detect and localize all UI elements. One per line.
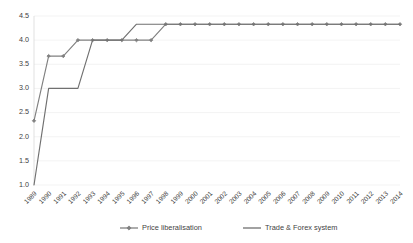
x-axis-tick-label: 1990 [37, 190, 53, 206]
x-axis-tick-label: 1995 [110, 190, 126, 206]
data-point-marker [135, 38, 138, 41]
x-axis-tick-label: 1991 [52, 190, 68, 206]
legend: Price liberalisationTrade & Forex system [120, 223, 337, 232]
x-axis-tick-label: 2012 [359, 190, 375, 206]
legend-item-label: Trade & Forex system [265, 223, 337, 232]
x-axis-tick-label: 2003 [228, 190, 244, 206]
x-axis-tick-label: 2000 [184, 190, 200, 206]
x-axis-tick-label: 2002 [213, 190, 229, 206]
y-axis-tick-label: 2.5 [19, 107, 29, 116]
y-axis-tick-label: 3.0 [19, 83, 29, 92]
x-axis-tick-label: 1996 [125, 190, 141, 206]
x-axis-tick-label: 2001 [198, 190, 214, 206]
y-axis-tick-label: 4.0 [19, 35, 29, 44]
chart-container: 1.01.52.02.53.03.54.04.51989199019911992… [0, 0, 413, 243]
x-axis-tick-label: 2009 [315, 190, 331, 206]
x-axis-labels: 1989199019911992199319941995199619971998… [23, 190, 405, 206]
y-axis-tick-label: 1.0 [19, 180, 29, 189]
x-axis-tick-label: 2014 [389, 190, 405, 206]
data-point-marker [32, 119, 35, 122]
x-axis-tick-label: 2013 [374, 190, 390, 206]
x-axis-tick-label: 1997 [140, 190, 156, 206]
x-axis-tick-label: 1989 [23, 190, 39, 206]
x-axis-tick-label: 2008 [301, 190, 317, 206]
line-chart: 1.01.52.02.53.03.54.04.51989199019911992… [0, 0, 413, 243]
x-axis-tick-label: 2005 [257, 190, 273, 206]
x-axis-tick-label: 2007 [286, 190, 302, 206]
x-axis-tick-label: 2006 [271, 190, 287, 206]
x-axis-tick-label: 1992 [67, 190, 83, 206]
y-axis-tick-label: 2.0 [19, 132, 29, 141]
y-axis-tick-label: 4.5 [19, 11, 29, 20]
x-axis-tick-label: 2004 [242, 190, 258, 206]
series-line [34, 24, 400, 121]
y-axis-tick-label: 3.5 [19, 59, 29, 68]
series-1 [32, 23, 401, 123]
data-point-marker [47, 54, 50, 57]
x-axis-tick-label: 2011 [345, 190, 360, 205]
legend-item-label: Price liberalisation [142, 223, 202, 232]
x-axis-tick-label: 2010 [330, 190, 346, 206]
x-axis-tick-label: 1994 [96, 190, 112, 206]
x-axis-tick-label: 1998 [154, 190, 170, 206]
gridlines: 1.01.52.02.53.03.54.04.5 [19, 11, 400, 189]
x-axis-tick-label: 1993 [81, 190, 97, 206]
x-axis-tick-label: 1999 [169, 190, 185, 206]
legend-marker-icon [127, 226, 131, 230]
y-axis-tick-label: 1.5 [19, 156, 29, 165]
